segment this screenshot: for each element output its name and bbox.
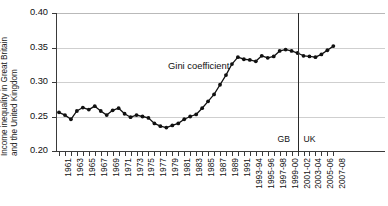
x-axis-tick-label: 2007-08: [337, 158, 347, 189]
x-axis-tick-label: 1975: [146, 158, 156, 177]
y-axis-tick-mark: [52, 13, 56, 14]
x-axis-tick-label: 2005-06: [325, 158, 335, 189]
x-axis-tick-mark: [77, 152, 78, 156]
x-axis-tick-mark: [131, 152, 132, 156]
x-axis-tick-mark: [190, 152, 191, 156]
x-axis-tick-label: 1987: [218, 158, 228, 177]
gridline: [57, 48, 385, 49]
x-axis-tick-label: 1967: [99, 158, 109, 177]
x-axis-tick-label: 1991: [242, 158, 252, 177]
y-axis-line: [56, 13, 57, 152]
x-axis-tick-mark: [214, 152, 215, 156]
x-axis-tick-mark: [71, 152, 72, 156]
x-axis-tick-label: 1983: [194, 158, 204, 177]
x-axis-tick-mark: [95, 152, 96, 156]
x-axis-tick-mark: [226, 152, 227, 156]
x-axis-tick-mark: [327, 152, 328, 156]
x-axis-tick-mark: [280, 152, 281, 156]
x-axis-tick-mark: [137, 152, 138, 156]
y-axis-tick-mark: [52, 82, 56, 83]
series-annotation-label: Gini coefficient: [168, 60, 229, 71]
x-axis-tick-mark: [208, 152, 209, 156]
x-axis-tick-mark: [244, 152, 245, 156]
x-axis-tick-mark: [119, 152, 120, 156]
x-axis-tick-mark: [65, 152, 66, 156]
plot-area: [57, 13, 385, 151]
x-axis-tick-mark: [154, 152, 155, 156]
x-axis-tick-label: 1961: [63, 158, 73, 177]
x-axis-tick-mark: [172, 152, 173, 156]
x-axis-tick-label: 1985: [206, 158, 216, 177]
x-axis-tick-mark: [262, 152, 263, 156]
x-axis-tick-mark: [178, 152, 179, 156]
x-axis-tick-label: 1997-98: [278, 158, 288, 189]
gini-coefficient-chart: Income inequality in Great Britain and t…: [0, 0, 388, 206]
x-axis-tick-mark: [304, 152, 305, 156]
x-axis-tick-mark: [315, 152, 316, 156]
x-axis-tick-mark: [125, 152, 126, 156]
x-axis-tick-label: 1965: [87, 158, 97, 177]
y-axis-tick-mark: [52, 48, 56, 49]
x-axis-tick-mark: [184, 152, 185, 156]
x-axis-tick-mark: [309, 152, 310, 156]
x-axis-tick-label: 2001-02: [302, 158, 312, 189]
x-axis-tick-mark: [232, 152, 233, 156]
y-axis-tick-label: 0.20: [18, 145, 48, 155]
x-axis-tick-label: 1995-96: [266, 158, 276, 189]
gridline: [57, 13, 385, 14]
x-axis-tick-mark: [148, 152, 149, 156]
x-axis-tick-mark: [238, 152, 239, 156]
x-axis-tick-mark: [83, 152, 84, 156]
x-axis-tick-label: 2003-04: [313, 158, 323, 189]
x-axis-tick-mark: [274, 152, 275, 156]
x-axis-tick-mark: [113, 152, 114, 156]
x-axis-tick-label: 1979: [170, 158, 180, 177]
x-axis-tick-mark: [166, 152, 167, 156]
x-axis-tick-mark: [202, 152, 203, 156]
x-axis-tick-mark: [321, 152, 322, 156]
x-axis-tick-mark: [333, 152, 334, 156]
x-axis-tick-mark: [107, 152, 108, 156]
x-axis-tick-label: 1963: [75, 158, 85, 177]
region-label-uk: UK: [304, 134, 316, 144]
x-axis-tick-label: 1999-00: [290, 158, 300, 189]
y-axis-tick-label: 0.30: [18, 76, 48, 86]
y-axis-tick-label: 0.40: [18, 7, 48, 17]
x-axis-tick-label: 1969: [111, 158, 121, 177]
x-axis-tick-mark: [142, 152, 143, 156]
y-axis-title-line-1: Income inequality in Great Britain: [0, 0, 10, 156]
x-axis-tick-mark: [256, 152, 257, 156]
x-axis-tick-mark: [160, 152, 161, 156]
y-axis-tick-label: 0.25: [18, 111, 48, 121]
x-axis-tick-mark: [220, 152, 221, 156]
gridline: [57, 82, 385, 83]
gridline: [57, 117, 385, 118]
x-axis-tick-label: 1989: [230, 158, 240, 177]
x-axis-tick-mark: [89, 152, 90, 156]
gb-uk-divider-line: [298, 13, 300, 152]
x-axis-tick-mark: [298, 152, 299, 156]
x-axis-tick-mark: [292, 152, 293, 156]
x-axis-tick-mark: [250, 152, 251, 156]
x-axis-tick-mark: [59, 152, 60, 156]
x-axis-tick-label: 1973: [135, 158, 145, 177]
x-axis-tick-mark: [196, 152, 197, 156]
x-axis-tick-mark: [286, 152, 287, 156]
x-axis-tick-mark: [268, 152, 269, 156]
x-axis-tick-label: 1971: [123, 158, 133, 177]
y-axis-tick-mark: [52, 151, 56, 152]
y-axis-tick-mark: [52, 117, 56, 118]
x-axis-tick-label: 1981: [182, 158, 192, 177]
x-axis-tick-mark: [101, 152, 102, 156]
x-axis-tick-label: 1993-94: [254, 158, 264, 189]
x-axis-tick-label: 1977: [158, 158, 168, 177]
region-label-gb: GB: [278, 134, 290, 144]
y-axis-tick-label: 0.35: [18, 42, 48, 52]
